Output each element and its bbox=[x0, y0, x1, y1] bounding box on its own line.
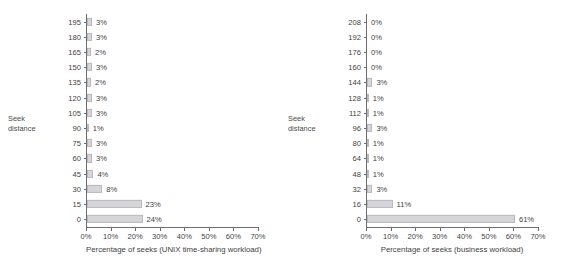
y-axis-tick bbox=[84, 189, 87, 190]
value-label: 3% bbox=[376, 184, 387, 193]
bar-row: 061% bbox=[366, 212, 538, 226]
bar-row: 901% bbox=[86, 121, 258, 135]
y-axis-tick bbox=[364, 204, 367, 205]
value-label: 1% bbox=[373, 139, 384, 148]
bar bbox=[367, 200, 393, 208]
y-axis-title: Seekdistance bbox=[288, 114, 316, 135]
x-axis-title: Percentage of seeks (UNIX time-sharing w… bbox=[86, 245, 258, 254]
bar bbox=[87, 33, 92, 41]
value-label: 3% bbox=[96, 93, 107, 102]
category-label: 0 bbox=[77, 215, 81, 224]
value-label: 2% bbox=[95, 47, 106, 56]
y-axis-tick bbox=[364, 37, 367, 38]
category-label: 45 bbox=[73, 169, 81, 178]
bar-row: 454% bbox=[86, 167, 258, 181]
category-label: 48 bbox=[353, 169, 361, 178]
x-axis-tick-label: 40% bbox=[457, 232, 472, 241]
y-axis-tick bbox=[84, 82, 87, 83]
category-label: 96 bbox=[353, 123, 361, 132]
x-axis-tick bbox=[391, 228, 392, 231]
y-axis-tick bbox=[84, 128, 87, 129]
y-axis-tick bbox=[364, 128, 367, 129]
value-label: 3% bbox=[96, 108, 107, 117]
bar bbox=[367, 215, 515, 223]
bar-row: 1503% bbox=[86, 60, 258, 74]
category-label: 208 bbox=[348, 17, 361, 26]
x-axis-tick bbox=[415, 228, 416, 231]
bar-row: 1053% bbox=[86, 106, 258, 120]
value-label: 23% bbox=[146, 199, 161, 208]
y-axis-tick bbox=[84, 113, 87, 114]
bar bbox=[367, 154, 369, 162]
chart-panel-unix: Seekdistance1953%1803%1652%1503%1352%120… bbox=[0, 0, 280, 271]
y-axis-tick bbox=[364, 22, 367, 23]
x-axis-tick bbox=[209, 228, 210, 231]
category-label: 112 bbox=[349, 108, 361, 117]
x-axis-tick bbox=[489, 228, 490, 231]
category-label: 128 bbox=[348, 93, 361, 102]
category-label: 60 bbox=[73, 154, 81, 163]
x-axis-tick-label: 0% bbox=[361, 232, 372, 241]
x-axis-tick bbox=[464, 228, 465, 231]
bar bbox=[87, 18, 92, 26]
category-label: 0 bbox=[357, 215, 361, 224]
y-axis-tick bbox=[84, 174, 87, 175]
x-axis-tick-label: 70% bbox=[530, 232, 545, 241]
category-label: 64 bbox=[353, 154, 361, 163]
bar bbox=[87, 170, 93, 178]
value-label: 24% bbox=[147, 215, 162, 224]
x-axis-tick bbox=[184, 228, 185, 231]
category-label: 30 bbox=[73, 184, 81, 193]
y-axis-tick bbox=[364, 67, 367, 68]
bar bbox=[87, 215, 143, 223]
bar-row: 1203% bbox=[86, 91, 258, 105]
bar bbox=[367, 78, 372, 86]
y-axis-tick bbox=[84, 219, 87, 220]
bar-row: 1600% bbox=[366, 60, 538, 74]
category-label: 195 bbox=[68, 17, 81, 26]
x-axis-tick bbox=[86, 228, 87, 231]
bar-row: 1281% bbox=[366, 91, 538, 105]
category-label: 192 bbox=[348, 32, 361, 41]
y-axis-tick bbox=[364, 98, 367, 99]
x-axis-tick-label: 60% bbox=[226, 232, 241, 241]
y-axis-tick bbox=[84, 37, 87, 38]
category-label: 90 bbox=[73, 123, 81, 132]
y-axis-title-line: distance bbox=[288, 124, 316, 135]
bar bbox=[367, 185, 372, 193]
category-label: 180 bbox=[68, 32, 81, 41]
value-label: 1% bbox=[373, 154, 384, 163]
x-axis-tick bbox=[111, 228, 112, 231]
bar bbox=[87, 78, 91, 86]
value-label: 8% bbox=[106, 184, 117, 193]
x-axis-tick-label: 50% bbox=[481, 232, 496, 241]
bar-row: 1443% bbox=[366, 76, 538, 90]
x-axis-tick bbox=[233, 228, 234, 231]
y-axis-tick bbox=[364, 219, 367, 220]
x-axis-tick-label: 0% bbox=[81, 232, 92, 241]
bar bbox=[367, 170, 369, 178]
x-axis-tick-label: 10% bbox=[383, 232, 398, 241]
bar bbox=[87, 94, 92, 102]
value-label: 3% bbox=[96, 139, 107, 148]
y-axis-tick bbox=[84, 52, 87, 53]
bar-row: 481% bbox=[366, 167, 538, 181]
y-axis-tick bbox=[84, 204, 87, 205]
value-label: 1% bbox=[373, 108, 384, 117]
value-label: 1% bbox=[93, 123, 104, 132]
y-axis-tick bbox=[364, 174, 367, 175]
value-label: 4% bbox=[97, 169, 108, 178]
value-label: 1% bbox=[373, 93, 384, 102]
value-label: 2% bbox=[95, 78, 106, 87]
value-label: 0% bbox=[371, 17, 382, 26]
y-axis-title: Seekdistance bbox=[8, 114, 36, 135]
bar-row: 1953% bbox=[86, 15, 258, 29]
y-axis-tick bbox=[364, 143, 367, 144]
bar-row: 1611% bbox=[366, 197, 538, 211]
category-label: 160 bbox=[348, 63, 361, 72]
bar-row: 1352% bbox=[86, 76, 258, 90]
x-axis-tick bbox=[135, 228, 136, 231]
bar bbox=[87, 63, 92, 71]
category-label: 120 bbox=[68, 93, 81, 102]
bar-row: 024% bbox=[86, 212, 258, 226]
